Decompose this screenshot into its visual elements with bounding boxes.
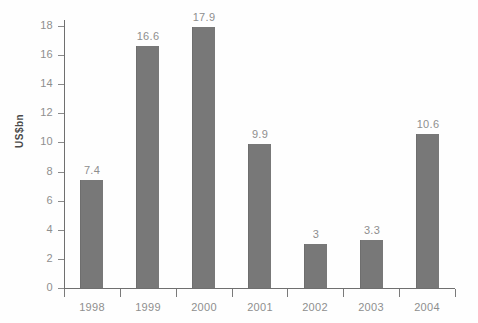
bar-value-label: 16.6 [137,30,160,42]
x-axis-tick [399,289,400,297]
x-axis-tick [455,289,456,297]
bar: 17.9 [192,27,215,288]
x-axis-tick [176,289,177,297]
x-axis-tick [64,289,65,297]
y-axis-tick-label: 12 [40,106,53,118]
y-axis-tick-label: 14 [40,77,53,89]
bar: 9.9 [248,144,271,288]
x-axis-category-label: 2001 [247,301,273,313]
bar: 3 [304,244,327,288]
x-axis-category-label: 2000 [191,301,217,313]
y-axis-tick: 8 [58,172,64,173]
x-axis-category-label: 2004 [414,301,440,313]
x-axis-category-label: 2002 [302,301,328,313]
x-axis-tick [287,289,288,297]
y-axis-tick-label: 8 [47,165,53,177]
y-axis-line [64,20,65,288]
bar-value-label: 3.3 [364,224,380,236]
x-axis-tick [120,289,121,297]
bar: 3.3 [360,240,383,288]
y-axis-tick: 14 [58,84,64,85]
plot-area: 024681012141618 7.416.617.99.933.310.6 1… [64,26,455,288]
y-axis-tick: 12 [58,113,64,114]
y-axis-tick-label: 0 [47,281,53,293]
x-axis-category-label: 2003 [358,301,384,313]
y-axis-tick-label: 18 [40,19,53,31]
bar-value-label: 3 [313,228,319,240]
y-axis-tick: 2 [58,259,64,260]
y-axis-tick-label: 2 [47,252,53,264]
y-axis-tick: 6 [58,201,64,202]
y-axis-tick: 16 [58,55,64,56]
bar: 7.4 [80,180,103,288]
bar-value-label: 7.4 [84,164,100,176]
chart-figure: US$bn 024681012141618 7.416.617.99.933.3… [0,0,478,323]
y-axis-title: US$bn [14,114,25,148]
y-axis-tick-label: 6 [47,194,53,206]
bar: 16.6 [136,46,159,288]
bar-value-label: 9.9 [252,128,268,140]
y-axis-tick: 10 [58,142,64,143]
x-axis-tick [232,289,233,297]
bar: 10.6 [416,134,439,288]
x-axis-category-label: 1998 [79,301,105,313]
bar-value-label: 10.6 [417,118,440,130]
y-axis-tick-label: 10 [40,135,53,147]
y-axis-tick: 18 [58,26,64,27]
y-axis-tick-label: 16 [40,48,53,60]
bar-value-label: 17.9 [193,11,216,23]
x-axis-tick [343,289,344,297]
y-axis-tick-label: 4 [47,223,53,235]
y-axis-tick: 4 [58,230,64,231]
x-axis-category-label: 1999 [135,301,161,313]
x-axis-line [64,288,455,289]
